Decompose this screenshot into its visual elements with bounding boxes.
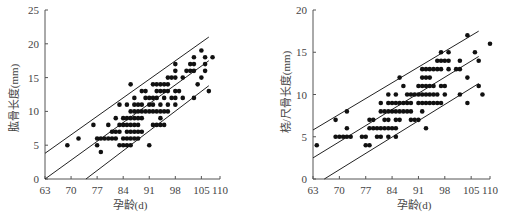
x-tick-label: 91 xyxy=(413,184,424,196)
x-axis: 637077849198105110 xyxy=(40,176,229,196)
data-point xyxy=(476,84,481,89)
data-point xyxy=(367,143,372,148)
y-tick-label: 25 xyxy=(28,4,40,16)
data-point xyxy=(397,118,402,123)
data-point xyxy=(117,129,122,134)
x-tick-label: 98 xyxy=(439,184,451,196)
data-point xyxy=(345,126,350,131)
data-point xyxy=(458,92,463,97)
data-point xyxy=(113,136,118,141)
data-point xyxy=(140,129,145,134)
data-point xyxy=(143,89,148,94)
data-point xyxy=(132,96,137,101)
regression-line-lower xyxy=(324,84,478,179)
y-axis-label: 肱骨长度(mm) xyxy=(7,63,21,132)
regression-line-mean xyxy=(313,56,479,157)
x-tick-label: 77 xyxy=(92,184,104,196)
data-point xyxy=(386,134,391,139)
humerus-chart-svg: 0510152025 637077849198105110 肱骨长度(mm) 孕… xyxy=(0,0,253,218)
data-point xyxy=(397,75,402,80)
data-point xyxy=(173,75,178,80)
data-point xyxy=(177,89,182,94)
data-point xyxy=(199,48,204,53)
data-point xyxy=(210,55,215,60)
data-point xyxy=(125,102,130,107)
data-point xyxy=(409,101,414,106)
humerus-length-chart: 0510152025 637077849198105110 肱骨长度(mm) 孕… xyxy=(0,0,253,218)
data-point xyxy=(439,50,444,55)
x-tick-label: 77 xyxy=(360,184,372,196)
data-point xyxy=(420,109,425,114)
data-point xyxy=(128,143,133,148)
data-point xyxy=(394,134,399,139)
data-point xyxy=(195,82,200,87)
x-tick-label: 70 xyxy=(66,184,78,196)
data-point xyxy=(162,96,167,101)
data-point xyxy=(439,67,444,72)
y-tick-label: 5 xyxy=(302,131,308,143)
data-point xyxy=(162,123,167,128)
x-tick-label: 70 xyxy=(334,184,346,196)
data-point xyxy=(166,102,171,107)
y-tick-label: 20 xyxy=(28,38,40,50)
y-tick-label: 20 xyxy=(296,4,308,16)
data-point xyxy=(117,102,122,107)
data-point xyxy=(371,118,376,123)
data-point xyxy=(180,96,185,101)
data-point xyxy=(427,75,432,80)
data-point xyxy=(128,82,133,87)
data-point xyxy=(378,134,383,139)
data-point xyxy=(113,116,118,121)
regression-lines xyxy=(45,37,209,179)
data-point xyxy=(401,84,406,89)
data-point xyxy=(166,82,171,87)
y-tick-label: 15 xyxy=(296,46,308,58)
data-point xyxy=(424,126,429,131)
data-point xyxy=(192,55,197,60)
x-tick-label: 84 xyxy=(118,184,130,196)
data-point xyxy=(166,109,171,114)
x-axis-label: 孕龄(d) xyxy=(113,198,148,212)
data-point xyxy=(192,69,197,74)
data-point xyxy=(158,102,163,107)
data-point xyxy=(173,96,178,101)
data-point xyxy=(446,67,451,72)
data-point xyxy=(158,116,163,121)
x-tick-label: 98 xyxy=(170,184,182,196)
data-point xyxy=(147,143,152,148)
data-point xyxy=(431,84,436,89)
data-point xyxy=(136,123,141,128)
data-point xyxy=(394,92,399,97)
x-tick-label: 105 xyxy=(193,184,210,196)
data-point xyxy=(180,75,185,80)
regression-line-lower xyxy=(86,86,209,179)
data-point xyxy=(446,50,451,55)
data-point xyxy=(488,42,493,47)
data-point xyxy=(151,102,156,107)
data-point xyxy=(166,89,171,94)
radius-ulna-length-chart: 05101520 637077849198105110 桡/尺骨长度(mm) 孕… xyxy=(253,0,506,218)
data-point xyxy=(203,62,208,67)
data-point xyxy=(76,136,81,141)
data-point xyxy=(173,102,178,107)
radius-ulna-chart-svg: 05101520 637077849198105110 桡/尺骨长度(mm) 孕… xyxy=(253,0,506,218)
data-point xyxy=(416,118,421,123)
data-point xyxy=(106,123,111,128)
data-point xyxy=(386,92,391,97)
data-point xyxy=(192,62,197,67)
data-point xyxy=(465,33,470,38)
regression-line-upper xyxy=(313,31,479,130)
data-point xyxy=(363,134,368,139)
x-axis: 637077849198105110 xyxy=(308,176,499,196)
data-point xyxy=(476,58,481,63)
data-point xyxy=(378,101,383,106)
data-point xyxy=(458,58,463,63)
x-tick-label: 63 xyxy=(308,184,320,196)
data-point xyxy=(386,118,391,123)
data-point xyxy=(91,123,96,128)
data-point xyxy=(458,67,463,72)
y-axis-label: 桡/尺骨长度(mm) xyxy=(279,50,293,133)
data-point xyxy=(173,62,178,67)
data-point xyxy=(203,55,208,60)
data-point xyxy=(473,50,478,55)
